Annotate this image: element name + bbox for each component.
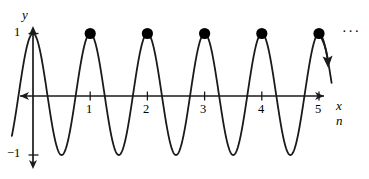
sample-dot (313, 28, 324, 39)
x-tick-label-4: 4 (258, 103, 264, 116)
x-tick-label-2: 2 (143, 103, 149, 116)
y-tick-label-bottom: −1 (7, 147, 20, 160)
figure-canvas (0, 0, 369, 179)
cosine-wave-curve (12, 34, 332, 156)
x-axis (20, 92, 324, 100)
x-axis-label: x (336, 99, 342, 112)
sample-dot (85, 28, 96, 39)
x-tick-label-3: 3 (200, 103, 206, 116)
x-tick-label-1: 1 (86, 103, 92, 116)
ellipsis-annotation: ··· (342, 25, 361, 39)
sample-dot (142, 28, 153, 39)
y-tick-label-top: 1 (14, 26, 20, 39)
sample-dot (199, 28, 210, 39)
y-axis (29, 26, 37, 169)
y-axis-label: y (22, 8, 28, 21)
sample-point-markers (85, 28, 325, 39)
x-tick-label-5: 5 (315, 103, 321, 116)
sample-dot (256, 28, 267, 39)
n-axis-label: n (336, 114, 343, 127)
sampled-cosine-figure: y 1 −1 1 2 3 4 5 x n ··· (0, 0, 369, 179)
